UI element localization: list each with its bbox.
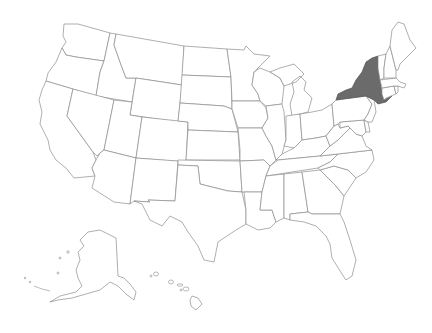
state-FL[interactable] xyxy=(290,212,356,280)
island-HI-kauai xyxy=(154,272,159,276)
state-IA[interactable] xyxy=(232,101,268,128)
island-AK-4 xyxy=(24,277,26,279)
island-HI-niihau xyxy=(150,275,152,277)
state-AK[interactable] xyxy=(50,230,136,302)
island-AK-5 xyxy=(29,281,31,283)
us-states-map xyxy=(0,0,432,333)
island-HI-lanai xyxy=(180,289,182,291)
aleutian-chain xyxy=(34,286,50,291)
island-HI-molokai xyxy=(177,284,183,286)
state-MA[interactable] xyxy=(380,78,406,88)
island-HI-maui xyxy=(183,287,189,291)
state-NM[interactable] xyxy=(130,158,178,204)
island-HI-oahu xyxy=(169,280,174,284)
state-AZ[interactable] xyxy=(92,150,136,204)
state-WY[interactable] xyxy=(130,78,182,122)
state-KS[interactable] xyxy=(186,130,240,160)
state-ME[interactable] xyxy=(390,22,416,70)
state-CO[interactable] xyxy=(136,117,188,162)
island-AK-3 xyxy=(57,272,59,274)
island-AK-1 xyxy=(67,251,69,253)
state-HI[interactable] xyxy=(190,296,202,310)
alaska-inset xyxy=(24,230,136,302)
island-AK-2 xyxy=(59,257,61,259)
hawaii-inset xyxy=(150,272,202,310)
state-ND[interactable] xyxy=(182,46,231,77)
